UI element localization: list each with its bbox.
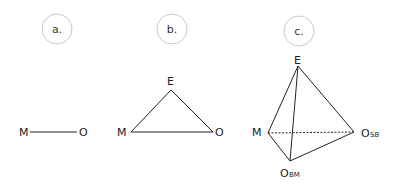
- edge-m-obm: [268, 133, 290, 161]
- node-obm-subscript: BM: [289, 171, 300, 179]
- panel-c-label: c.: [294, 25, 304, 38]
- edge-m-osb-hidden: [268, 132, 354, 133]
- edge-obm-osb: [290, 132, 354, 161]
- node-o-label: O: [79, 126, 88, 139]
- edge-e-osb: [298, 66, 354, 132]
- panel-c-badge: c.: [284, 16, 314, 46]
- panel-a-label: a.: [52, 23, 62, 36]
- triangle-edges: [131, 90, 213, 132]
- node-e-label: E: [294, 54, 301, 67]
- panel-a-badge: a.: [42, 14, 72, 44]
- diagram-b: E M O: [117, 75, 224, 139]
- diagram-canvas: a. b. c. M O E M O E M O SB O BM: [0, 0, 393, 185]
- node-osb-label: O: [361, 127, 370, 140]
- node-e-label: E: [167, 75, 174, 88]
- diagram-a: M O: [19, 126, 88, 139]
- node-m-label: M: [117, 126, 127, 139]
- panel-b-badge: b.: [157, 14, 187, 44]
- node-osb-subscript: SB: [370, 131, 379, 139]
- diagram-c: E M O SB O BM: [252, 54, 379, 180]
- panel-b-label: b.: [167, 23, 177, 36]
- node-o-label: O: [215, 126, 224, 139]
- node-m-label: M: [252, 126, 262, 139]
- node-obm-label: O: [280, 167, 289, 180]
- node-m-label: M: [19, 126, 29, 139]
